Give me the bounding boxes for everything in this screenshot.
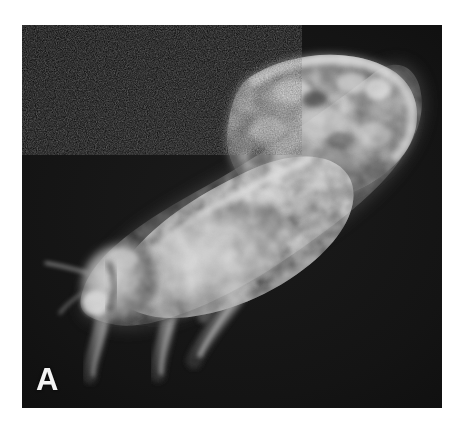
panel-label: A (36, 364, 58, 395)
micrograph-image: A (22, 25, 442, 408)
specimen-insect (22, 25, 442, 408)
figure-panel: A (0, 0, 462, 421)
